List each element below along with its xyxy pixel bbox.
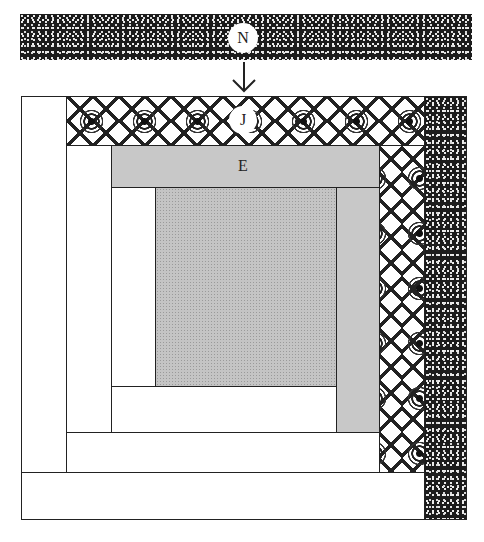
center-square [155,187,337,387]
strip-left-outer [21,96,67,473]
strip-left-3 [111,187,156,387]
strip-j-label: J [229,106,257,134]
strip-n-label: N [228,23,258,53]
strip-right-dark [424,96,467,520]
strip-bottom-inner [111,386,337,433]
strip-j-right [379,145,425,473]
strip-bottom-outer [21,472,425,520]
strip-e-label: E [238,157,248,175]
strip-left-2 [66,145,112,433]
strip-right-gray [336,187,380,433]
strip-bottom-2 [66,432,380,473]
arrow-down-icon [230,60,258,94]
